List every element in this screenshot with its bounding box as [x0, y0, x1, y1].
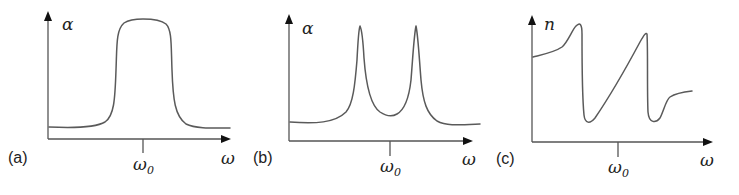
panel-label-b: (b): [253, 149, 273, 166]
y-axis-label: α: [302, 18, 314, 38]
omega0-label: ω0: [133, 154, 154, 177]
absorption-curve-doublet: [290, 26, 480, 125]
absorption-curve-broad: [49, 19, 230, 128]
figure-canvas: α ω ω0 (a) α ω ω0 (b) n ω ω0 (c): [0, 0, 739, 195]
y-axis-label: α: [62, 14, 74, 34]
x-axis-label: ω: [700, 150, 714, 170]
omega0-label: ω0: [380, 156, 401, 179]
y-axis-arrow-icon: [528, 15, 536, 25]
y-axis-arrow-icon: [44, 11, 52, 21]
x-axis-arrow-icon: [703, 138, 713, 146]
x-axis-arrow-icon: [221, 135, 231, 143]
refractive-index-curve: [533, 24, 692, 122]
x-axis-arrow-icon: [463, 137, 473, 145]
x-axis-label: ω: [221, 148, 235, 168]
panel-label-a: (a): [8, 149, 28, 166]
x-axis-label: ω: [462, 149, 476, 169]
panel-b: α ω ω0 (b): [253, 14, 480, 179]
panel-label-c: (c): [496, 150, 515, 167]
panel-c: n ω ω0 (c): [496, 14, 714, 180]
y-axis-arrow-icon: [285, 14, 293, 24]
y-axis-label: n: [544, 14, 555, 34]
omega0-label: ω0: [608, 157, 629, 180]
panel-a: α ω ω0 (a): [8, 11, 235, 177]
